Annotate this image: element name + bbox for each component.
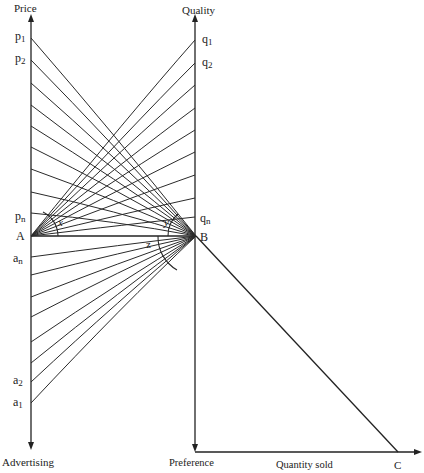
angle-y-label: y [163, 216, 169, 228]
quality-curve [31, 198, 195, 236]
price-axis-label: Price [14, 2, 37, 14]
advertising-curve [31, 236, 196, 275]
quality-tick-q2: q2 [202, 55, 213, 70]
price-tick-p2: p2 [15, 51, 26, 66]
advertising-tick-a2: a2 [13, 373, 23, 388]
point-a-label: A [16, 229, 25, 243]
advertising-tick-a1: a1 [13, 395, 23, 410]
quality-axis-label: Quality [182, 4, 215, 16]
quality-curve [31, 85, 195, 236]
line-bc [196, 236, 398, 452]
price-tick-p1: p1 [15, 29, 26, 44]
advertising-curve [31, 236, 196, 403]
point-b-label: B [200, 230, 208, 244]
quality-tick-qn: qn [200, 211, 211, 226]
quality-tick-q1: q1 [202, 32, 213, 47]
advertising-curve [31, 236, 196, 317]
quality-curve [31, 40, 195, 236]
preference-axis-label: Preference [169, 457, 214, 468]
point-c-label: C [394, 459, 401, 471]
advertising-curve [31, 236, 196, 382]
price-curve [31, 192, 196, 236]
price-tick-pn: pn [15, 209, 26, 224]
angle-z-label: z [146, 238, 151, 250]
advertising-to-b-curves [31, 236, 196, 403]
advertising-axis-label: Advertising [2, 456, 54, 468]
diagram-canvas: Price Quality p1 p2 pn q1 q2 qn an a2 a1… [0, 0, 424, 473]
angle-x-label: x [57, 216, 63, 228]
a-to-quality-curves [31, 40, 195, 236]
advertising-curve [31, 236, 196, 342]
quality-curve [31, 63, 195, 236]
quantity-sold-axis-label: Quantity sold [276, 459, 334, 470]
advertising-tick-an: an [13, 251, 23, 266]
